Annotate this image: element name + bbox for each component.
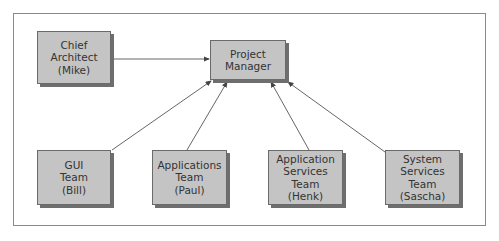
edge-gui-team-to-project-manager <box>112 81 211 150</box>
node-system-services-team: System Services Team (Sascha) <box>385 150 460 205</box>
node-gui-team: GUI Team (Bill) <box>37 150 111 205</box>
node-chief-architect: Chief Architect (Mike) <box>37 31 111 84</box>
edge-applications-team-to-project-manager <box>187 82 227 150</box>
node-project-manager: Project Manager <box>210 40 286 80</box>
node-applications-team: Applications Team (Paul) <box>152 150 227 205</box>
edge-application-services-team-to-project-manager <box>271 82 309 150</box>
edge-system-services-team-to-project-manager <box>288 82 385 152</box>
node-application-services-team: Application Services Team (Henk) <box>268 150 343 205</box>
